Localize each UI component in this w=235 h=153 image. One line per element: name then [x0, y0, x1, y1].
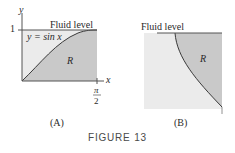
- y-tick-label: 1: [10, 23, 15, 34]
- region-label-a: R: [67, 55, 73, 66]
- y-axis-label: y: [19, 4, 23, 15]
- figure-caption: FIGURE 13: [88, 132, 147, 143]
- x-tick-numerator: π: [94, 85, 99, 95]
- region-label-b: R: [200, 53, 206, 64]
- panel-b-graphic: [144, 33, 222, 114]
- fluid-level-label-a: Fluid level: [50, 19, 93, 30]
- x-axis-label: x: [106, 74, 110, 85]
- panel-a-caption: (A): [50, 117, 64, 128]
- x-tick-denominator: 2: [94, 96, 99, 106]
- figure-canvas: [0, 0, 235, 153]
- panel-b-caption: (B): [174, 117, 187, 128]
- fluid-level-label-b: Fluid level: [141, 21, 184, 32]
- curve-label: y = sin x: [27, 31, 62, 42]
